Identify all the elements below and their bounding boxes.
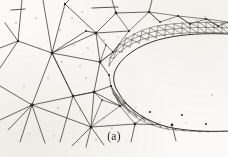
stray-marks — [11, 7, 118, 10]
c-shaped-void — [114, 34, 228, 132]
figure-caption: (a) — [0, 130, 228, 142]
figure-container: (a) — [0, 0, 228, 157]
